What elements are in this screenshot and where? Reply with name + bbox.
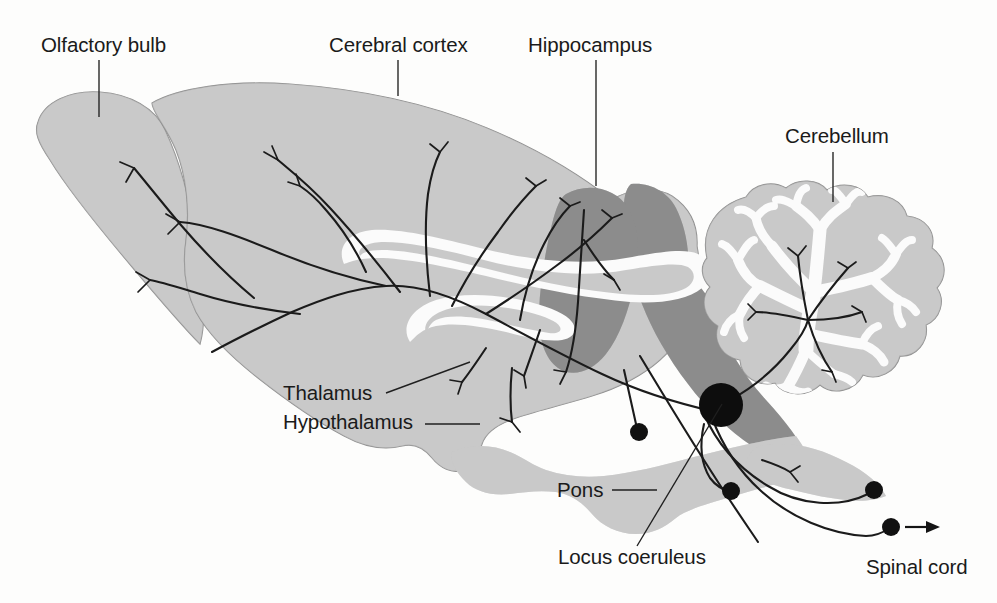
label-spinal-cord: Spinal cord (866, 555, 967, 578)
brain-sagittal-diagram: Olfactory bulb Cerebral cortex Hippocamp… (0, 0, 997, 603)
terminal-dot (630, 423, 648, 441)
terminal-dot (722, 482, 740, 500)
spinal-cord-texture (747, 444, 887, 501)
terminal-dot (882, 518, 900, 536)
label-hippocampus: Hippocampus (528, 33, 652, 56)
label-pons: Pons (557, 478, 603, 501)
label-thalamus: Thalamus (283, 381, 372, 404)
label-cerebellum: Cerebellum (785, 124, 889, 147)
spinal-cord-arrow-head (926, 521, 940, 533)
label-locus-coeruleus: Locus coeruleus (558, 545, 706, 568)
label-olfactory-bulb: Olfactory bulb (41, 33, 166, 56)
label-hypothalamus: Hypothalamus (283, 410, 413, 433)
terminal-dot (865, 481, 883, 499)
brain-regions (37, 83, 945, 534)
brain-diagram-figure: Olfactory bulb Cerebral cortex Hippocamp… (0, 0, 997, 603)
label-cerebral-cortex: Cerebral cortex (329, 33, 468, 56)
